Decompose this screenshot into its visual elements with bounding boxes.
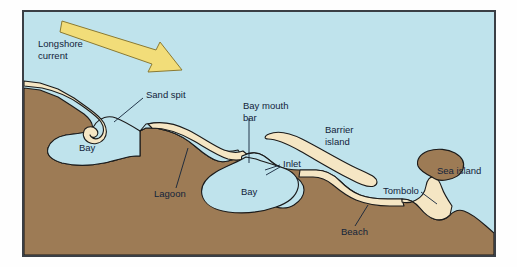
coastal-landforms-figure: Longshore current Sand spit Bay Lagoon B…: [0, 0, 517, 267]
label-longshore-current-line1: Longshore: [38, 38, 83, 49]
label-inlet: Inlet: [283, 158, 301, 169]
label-sand-spit: Sand spit: [146, 89, 186, 100]
diagram-canvas: Longshore current Sand spit Bay Lagoon B…: [0, 0, 517, 267]
label-bay-center: Bay: [241, 186, 258, 197]
label-bay-mouth-bar-line2: bar: [243, 112, 257, 123]
label-lagoon: Lagoon: [154, 188, 186, 199]
label-beach: Beach: [341, 226, 368, 237]
label-bay-mouth-bar-line1: Bay mouth: [243, 100, 288, 111]
label-barrier-island-line1: Barrier: [325, 124, 354, 135]
label-sea-island: Sea island: [437, 165, 481, 176]
label-barrier-island: Barrier island: [325, 124, 354, 147]
label-longshore-current-line2: current: [38, 50, 68, 61]
label-barrier-island-line2: island: [325, 136, 350, 147]
label-tombolo: Tombolo: [383, 185, 419, 196]
label-bay-left: Bay: [79, 142, 96, 153]
